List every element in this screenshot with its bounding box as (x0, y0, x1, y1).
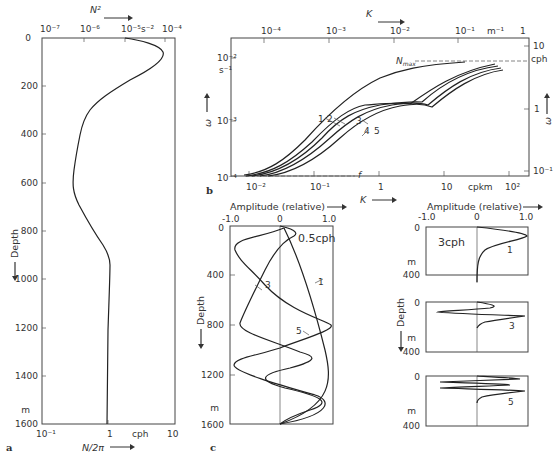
panel-a-n-profile-curve (73, 38, 163, 424)
panel-a-bottom-unit: cph (132, 429, 148, 439)
mode-label-1: 1 (318, 277, 324, 287)
panel-label-a: a (6, 442, 13, 453)
depth-tick: 1200 (201, 370, 224, 380)
frequency-label-0-5cph: 0.5cph (298, 232, 336, 245)
depth-unit: m (210, 403, 219, 413)
panel-b: K 10⁻⁴ 10⁻³ 10⁻² 10⁻¹ m⁻¹ 1 10⁻² s⁻¹ 10⁻… (202, 8, 553, 205)
x-tick: -1.0 (418, 212, 436, 222)
depth-tick: 1600 (201, 420, 224, 430)
arrow-right-icon (342, 204, 347, 210)
x-tick: 1.0 (322, 214, 337, 224)
mode-5-curve (240, 226, 322, 424)
depth-tick: 400 (207, 270, 224, 280)
panel-a: N² 10⁻⁷ 10⁻⁶ 10⁻⁵ s⁻² 10⁻⁴ 0 200 400 600… (6, 4, 182, 453)
svg-text:0: 0 (25, 33, 31, 43)
arrow-right-icon (400, 19, 405, 25)
svg-text:600: 600 (21, 178, 38, 188)
depth-tick: 0 (218, 223, 224, 233)
panel-b-right-tick: 10⁻¹ (533, 166, 553, 176)
panel-b-bottom-tick: 10⁻¹ (310, 182, 330, 192)
panel-b-right-unit: cph (531, 54, 547, 64)
panel-a-top-tick: 10⁻⁷ (40, 24, 60, 34)
panel-b-right-tick: 10 (533, 41, 545, 51)
panel-b-top-tick: 10⁻² (390, 26, 410, 36)
panel-b-top-tick: 10⁻¹ (455, 26, 475, 36)
dispersion-curves (244, 62, 503, 176)
panel-b-top-axis-label: K (366, 8, 373, 19)
arrow-head-icon (128, 15, 133, 21)
panel-b-top-tick: 10⁻³ (326, 26, 346, 36)
arrow-down-icon (198, 344, 204, 349)
f-label: f (358, 170, 363, 180)
panel-b-y-axis-label: ω (202, 119, 213, 127)
panel-a-y-axis-label: Depth (9, 229, 20, 258)
panel-b-right-tick: 1 (534, 104, 540, 114)
x-tick: -1.0 (222, 214, 240, 224)
depth-tick: 400 (403, 270, 420, 280)
mode-label-1: 1 (507, 245, 513, 255)
arrow-right-icon (538, 204, 543, 210)
small-mode-1-curve (477, 227, 527, 282)
mode-label-3: 3 (265, 280, 271, 290)
x-tick: 0 (277, 214, 283, 224)
panel-b-bottom-tick: 10 (441, 182, 453, 192)
panel-a-top-axis-label: N² (90, 4, 101, 15)
depth-tick: 400 (403, 347, 420, 357)
depth-unit: m (407, 257, 416, 267)
panel-b-bottom-tick: 1 (378, 182, 384, 192)
panel-c-main-frame (230, 226, 333, 424)
mode-label-3: 3 (509, 321, 515, 331)
panel-b-bottom-tick: 10⁻² (246, 182, 266, 192)
panel-b-top-tick: 10⁻⁴ (261, 26, 281, 36)
svg-text:400: 400 (21, 129, 38, 139)
panel-a-bottom-tick: 1 (107, 429, 113, 439)
mode-1-curve (280, 228, 328, 424)
curve-label-3: 3 (356, 116, 362, 126)
panel-b-bottom-axis-label: K (360, 194, 367, 205)
panel-c-small: Amplitude (relative) -1.0 0 1.0 0 m 400 … (395, 201, 543, 431)
n-max-label: Nmax (396, 56, 416, 67)
panel-b-bottom-tick: 10² (505, 182, 520, 192)
panel-a-bottom-axis-label: N/2π (82, 442, 104, 453)
panel-c-x-axis-label: Amplitude (relative) (230, 201, 325, 212)
curve-label-1: 1 (318, 114, 324, 124)
frequency-label-3cph: 3cph (438, 236, 465, 249)
panel-b-right-axis-label: ω (542, 117, 553, 125)
svg-text:1200: 1200 (15, 323, 38, 333)
svg-text:m: m (21, 405, 30, 415)
panel-label-c: c (210, 442, 216, 453)
mode-label-5: 5 (296, 326, 302, 336)
svg-text:1000: 1000 (15, 274, 38, 284)
x-tick: 1.0 (519, 212, 534, 222)
depth-tick: 800 (207, 320, 224, 330)
mode-3-curve (234, 228, 331, 424)
panel-b-top-tick: 1 (520, 26, 526, 36)
panel-a-bottom-tick: 10⁻¹ (36, 429, 56, 439)
depth-tick: 0 (414, 298, 420, 308)
figure: N² 10⁻⁷ 10⁻⁶ 10⁻⁵ s⁻² 10⁻⁴ 0 200 400 600… (0, 0, 558, 458)
panel-b-left-tick: 10⁻⁴ (217, 173, 237, 183)
panel-c-y-axis-label: Depth (195, 296, 206, 325)
svg-text:200: 200 (21, 81, 38, 91)
panel-c-small-y-axis-label: Depth (395, 298, 406, 327)
panel-c-main: Amplitude (relative) -1.0 0 1.0 0 400 80… (195, 201, 347, 453)
svg-text:1600: 1600 (15, 419, 38, 429)
panel-b-top-unit: m⁻¹ (487, 26, 505, 36)
svg-text:800: 800 (21, 226, 38, 236)
panel-a-top-unit: s⁻² (141, 24, 154, 34)
depth-unit: m (407, 406, 416, 416)
depth-tick: 0 (414, 372, 420, 382)
arrow-right-icon (392, 197, 397, 203)
panel-a-frame (42, 38, 175, 424)
panel-b-left-unit: s⁻¹ (219, 65, 232, 75)
svg-text:1400: 1400 (15, 371, 38, 381)
mode-label-5: 5 (508, 397, 514, 407)
panel-a-top-tick: 10⁻⁵ (121, 24, 141, 34)
panel-b-frame (231, 38, 529, 176)
curve-label-5: 5 (374, 126, 380, 136)
depth-tick: 400 (403, 421, 420, 431)
panel-c-small-x-axis-label: Amplitude (relative) (427, 201, 522, 212)
depth-tick: 0 (414, 223, 420, 233)
arrow-up-icon (204, 93, 210, 98)
panel-label-b: b (206, 185, 213, 196)
